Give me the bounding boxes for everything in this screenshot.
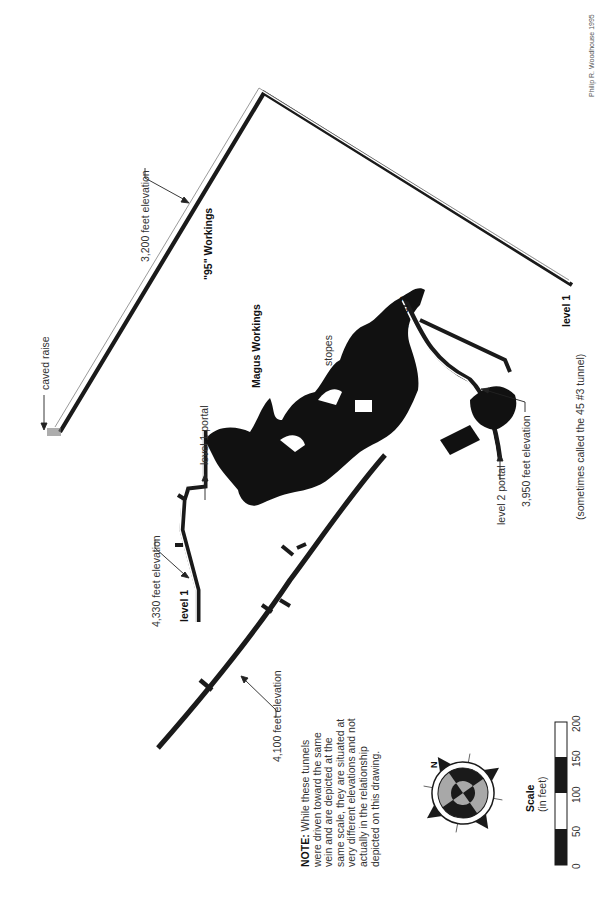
scale-tick-150: 150	[571, 750, 583, 767]
label-elevation-3950: 3,950 feet elevation	[520, 415, 532, 507]
credit-text: Philip R. Woodhouse 1995	[586, 14, 598, 97]
caved-raise-marker	[47, 428, 61, 436]
note-lead: NOTE:	[299, 834, 311, 867]
tunnel-3200	[47, 88, 572, 436]
label-elevation-4330: 4,330 feet elevation	[150, 535, 162, 627]
scale-bar	[555, 722, 567, 865]
label-level1-right-sub: (sometimes called the 45 #3 tunnel)	[574, 354, 586, 520]
compass-rose	[402, 732, 525, 855]
note-text: NOTE: While these tunnels were driven to…	[300, 717, 381, 867]
label-level1-left: level 1	[178, 590, 190, 622]
note-body: While these tunnels were driven toward t…	[299, 718, 381, 867]
scale-title: Scale	[524, 785, 536, 812]
scale-tick-50: 50	[571, 826, 583, 837]
label-stopes: stopes	[322, 335, 334, 366]
mine-map-page: Philip R. Woodhouse 1995 caved raise 3,2…	[0, 0, 612, 913]
label-level2-portal: level 2 portal	[495, 465, 507, 525]
label-level1-right: level 1	[560, 295, 572, 327]
label-caved-raise: caved raise	[39, 336, 51, 390]
compass-north-label: N	[428, 762, 440, 769]
scale-tick-100: 100	[571, 786, 583, 803]
label-level1-portal: level 1 portal	[198, 405, 210, 465]
tunnel-level2	[402, 300, 516, 460]
label-elevation-3200: 3,200 feet elevation	[139, 170, 151, 262]
scale-tick-0: 0	[571, 863, 583, 869]
scale-tick-200: 200	[571, 715, 583, 732]
label-elevation-4100: 4,100 feet elevation	[271, 670, 283, 762]
scale-unit: (in feet)	[536, 776, 548, 812]
magus-stopes	[205, 288, 425, 505]
label-95-workings: "95" Workings	[202, 208, 214, 280]
label-level2: level 2	[398, 296, 410, 328]
label-magus-workings: Magus Workings	[250, 304, 262, 388]
